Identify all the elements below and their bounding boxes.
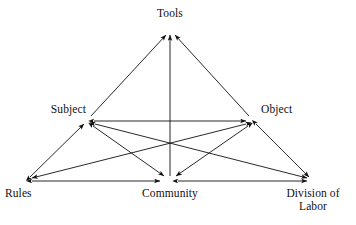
- edge-object-rules: [32, 124, 246, 178]
- node-label-division-line2: Labor: [286, 200, 339, 213]
- node-label-division-of-labor: Division of Labor: [286, 187, 339, 212]
- edge-subject-division: [95, 124, 307, 178]
- edge-rules-subject: [30, 124, 84, 177]
- node-label-rules: Rules: [5, 187, 32, 200]
- activity-theory-diagram: Tools Subject Object Rules Community Div…: [0, 0, 356, 225]
- node-label-division-line1: Division of: [286, 187, 339, 200]
- edge-subject-tools: [91, 35, 166, 116]
- node-label-subject: Subject: [51, 103, 86, 116]
- node-label-community: Community: [142, 187, 198, 200]
- edge-object-tools: [175, 35, 249, 116]
- node-label-tools: Tools: [157, 7, 183, 20]
- edge-subject-community: [93, 126, 164, 176]
- node-label-object: Object: [261, 103, 292, 116]
- edge-object-division: [256, 124, 309, 177]
- edge-object-community: [176, 126, 248, 176]
